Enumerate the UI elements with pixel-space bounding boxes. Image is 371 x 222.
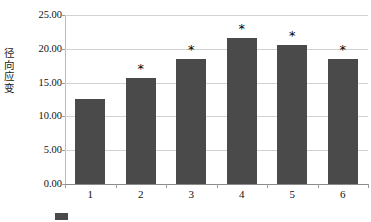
x-axis-tick-mark: [116, 184, 117, 188]
y-axis-tick-label: 25.00: [20, 10, 62, 21]
x-axis-tick-label: 1: [70, 188, 110, 200]
x-axis-tick-mark: [267, 184, 268, 188]
x-axis-tick-mark: [65, 184, 66, 188]
y-axis-tick-label: 20.00: [20, 44, 62, 55]
bar-chart-figure: 径向应变 25.0020.0015.0010.005.000.00 ***** …: [0, 0, 371, 222]
figure-caption: [55, 210, 371, 222]
bar: [176, 59, 206, 184]
bar-slot: *: [217, 15, 268, 184]
y-axis-title: 径向应变: [2, 48, 16, 94]
x-axis-tick-mark: [166, 184, 167, 188]
significance-asterisk: *: [138, 65, 145, 73]
caption-legend-swatch: [55, 213, 68, 220]
bar: [328, 59, 358, 184]
y-axis-tick-label: 5.00: [20, 145, 62, 156]
bar: [227, 38, 257, 184]
x-axis-tick-label: 2: [121, 188, 161, 200]
bar-slot: *: [166, 15, 217, 184]
x-axis-tick-label: 4: [222, 188, 262, 200]
bar: [75, 99, 105, 184]
y-axis-tick-label: 0.00: [20, 179, 62, 190]
bar-slot: *: [267, 15, 318, 184]
significance-asterisk: *: [188, 46, 195, 54]
x-axis-tick-mark: [217, 184, 218, 188]
x-axis-tick-mark: [318, 184, 319, 188]
bar-slot: *: [318, 15, 369, 184]
y-axis-title-char: 向: [2, 60, 16, 72]
y-axis-tick-labels: 25.0020.0015.0010.005.000.00: [16, 0, 62, 222]
significance-asterisk: *: [289, 32, 296, 40]
significance-asterisk: *: [340, 46, 347, 54]
x-axis-tick-label: 6: [323, 188, 363, 200]
x-axis-tick-label: 5: [272, 188, 312, 200]
y-axis-title-char: 径: [2, 48, 16, 60]
bar-slot: [65, 15, 116, 184]
plot-area: *****: [65, 15, 368, 184]
y-axis-tick-label: 10.00: [20, 111, 62, 122]
y-axis-title-char: 应: [2, 71, 16, 83]
y-axis-title-char: 变: [2, 83, 16, 95]
x-axis-tick-label: 3: [171, 188, 211, 200]
x-axis-tick-mark: [368, 184, 369, 188]
y-axis-tick-label: 15.00: [20, 78, 62, 89]
significance-asterisk: *: [239, 25, 246, 33]
bar-slot: *: [116, 15, 167, 184]
bar: [277, 45, 307, 184]
bar: [126, 78, 156, 184]
